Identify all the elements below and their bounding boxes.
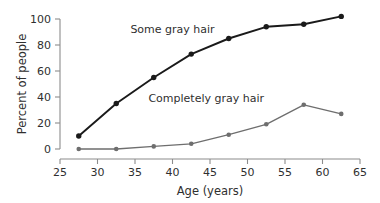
data-point <box>151 144 156 149</box>
series-annotations: Some gray hairCompletely gray hair <box>130 23 264 105</box>
x-tick-label: 50 <box>241 166 255 179</box>
y-axis-title: Percent of people <box>15 34 29 135</box>
y-tick-label: 80 <box>37 39 51 52</box>
y-tick-label: 20 <box>37 117 51 130</box>
x-tick-label: 65 <box>353 166 367 179</box>
x-tick-label: 45 <box>203 166 217 179</box>
series-line <box>79 105 342 149</box>
x-axis-ticks <box>60 159 360 164</box>
data-point <box>339 14 344 19</box>
data-point <box>114 147 119 152</box>
data-point <box>226 132 231 137</box>
chart-container: 020406080100 Percent of people 253035404… <box>0 0 380 203</box>
y-tick-label: 40 <box>37 91 51 104</box>
y-tick-label: 0 <box>44 143 51 156</box>
data-point <box>76 147 81 152</box>
x-axis-title: Age (years) <box>177 184 244 198</box>
y-tick-label: 100 <box>30 13 51 26</box>
data-point <box>151 75 156 80</box>
x-axis: 253035404550556065 Age (years) <box>53 159 367 198</box>
y-axis-tick-labels: 020406080100 <box>30 13 51 156</box>
data-point <box>189 142 194 147</box>
data-point <box>264 24 269 29</box>
x-tick-label: 55 <box>278 166 292 179</box>
completely-gray-hair-label: Completely gray hair <box>148 92 264 105</box>
data-point <box>76 133 81 138</box>
x-tick-label: 25 <box>53 166 67 179</box>
data-point <box>301 22 306 27</box>
y-axis: 020406080100 Percent of people <box>15 13 60 156</box>
y-axis-ticks <box>55 19 60 149</box>
x-tick-label: 30 <box>91 166 105 179</box>
data-point <box>114 101 119 106</box>
x-tick-label: 35 <box>128 166 142 179</box>
y-tick-label: 60 <box>37 65 51 78</box>
line-chart: 020406080100 Percent of people 253035404… <box>0 0 380 203</box>
data-point <box>339 112 344 117</box>
x-tick-label: 60 <box>316 166 330 179</box>
x-axis-tick-labels: 253035404550556065 <box>53 166 367 179</box>
data-point <box>264 122 269 127</box>
x-tick-label: 40 <box>166 166 180 179</box>
series-completely-gray-hair <box>76 103 343 152</box>
data-point <box>301 103 306 108</box>
data-point <box>226 36 231 41</box>
data-point <box>189 51 194 56</box>
some-gray-hair-label: Some gray hair <box>130 23 215 36</box>
